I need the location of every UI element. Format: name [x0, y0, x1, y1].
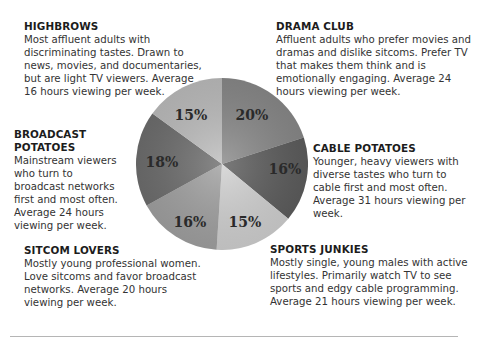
segment-title: HIGHBROWS [24, 20, 204, 33]
segment-description: Younger, heavy viewers with diverse tast… [313, 155, 473, 220]
label-drama-club: 20% [236, 107, 269, 123]
label-cable-potatoes: 16% [269, 161, 302, 177]
segment-cable-potatoes: CABLE POTATOES Younger, heavy viewers wi… [313, 142, 473, 220]
segment-description: Mainstream viewers who turn to broadcast… [14, 154, 124, 232]
segment-broadcast-potatoes: BROADCAST POTATOES Mainstream viewers wh… [14, 128, 124, 232]
segment-description: Mostly single, young males with active l… [270, 256, 470, 308]
segment-title: BROADCAST POTATOES [14, 128, 124, 154]
label-highbrows: 15% [175, 107, 208, 123]
segment-title: DRAMA CLUB [276, 20, 476, 33]
pie-chart: 20% 16% 15% 16% 18% 15% [136, 78, 308, 250]
label-sports-junkies: 15% [229, 214, 262, 230]
segment-description: Mostly young professional women. Love si… [24, 257, 204, 309]
segment-sitcom-lovers: SITCOM LOVERS Mostly young professional … [24, 244, 204, 309]
label-sitcom-lovers: 16% [174, 214, 207, 230]
horizontal-divider [10, 336, 458, 337]
segment-title: CABLE POTATOES [313, 142, 473, 155]
segment-sports-junkies: SPORTS JUNKIES Mostly single, young male… [270, 243, 470, 308]
label-broadcast-potatoes: 18% [146, 154, 179, 170]
